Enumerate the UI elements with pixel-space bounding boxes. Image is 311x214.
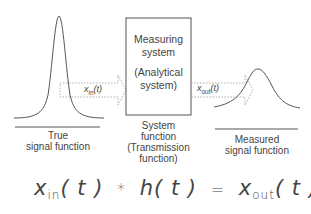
- system-caption-line-1: System: [110, 120, 207, 131]
- true-caption-line-2: signal function: [8, 141, 108, 152]
- true-signal-caption: True signal function: [8, 130, 108, 152]
- box-line-3: (Analytical: [126, 66, 191, 79]
- input-arrow-label: xin(t): [84, 84, 102, 96]
- eq-term3-arg: ( t ): [275, 176, 311, 200]
- system-caption-line-4: function): [110, 153, 207, 164]
- eq-equals: =: [211, 180, 225, 199]
- eq-term2-h: h( t ): [140, 176, 197, 200]
- convolution-equation: xin( t ) * h( t ) = xout( t ): [34, 176, 294, 202]
- input-label-arg: (t): [94, 84, 103, 94]
- box-line-2: system: [126, 46, 191, 59]
- measured-signal-curve: [214, 69, 300, 108]
- output-label-sub: out: [202, 88, 211, 95]
- eq-term1-sub: in: [47, 188, 60, 202]
- eq-term1-arg: ( t ): [60, 176, 103, 200]
- measured-caption-line-1: Measured: [207, 134, 307, 145]
- measuring-system-text: Measuring system (Analytical system): [126, 33, 191, 91]
- output-arrow-label: xout(t): [197, 83, 219, 95]
- box-line-4: system): [126, 79, 191, 92]
- true-signal-curve: [14, 16, 104, 118]
- system-function-caption: System function (Transmission function): [110, 120, 207, 164]
- output-label-arg: (t): [211, 83, 220, 93]
- eq-term3-sub: out: [252, 188, 275, 202]
- system-caption-line-2: function: [110, 131, 207, 142]
- measured-signal-caption: Measured signal function: [207, 134, 307, 156]
- true-caption-line-1: True: [8, 130, 108, 141]
- eq-term1-x: x: [34, 176, 47, 200]
- measured-caption-line-2: signal function: [207, 145, 307, 156]
- box-line-1: Measuring: [126, 33, 191, 46]
- eq-term3-x: x: [239, 176, 252, 200]
- eq-convolution-operator: *: [117, 180, 126, 199]
- system-caption-line-3: (Transmission: [110, 142, 207, 153]
